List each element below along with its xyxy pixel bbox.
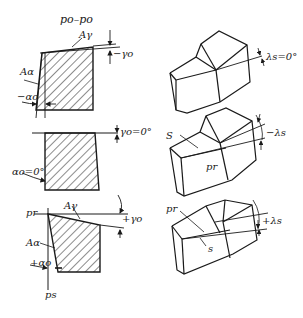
clearance-angle-label: αo=0° <box>12 167 45 177</box>
hatched-tool-section <box>45 133 99 190</box>
hatched-tool-section <box>48 214 100 272</box>
clearance-angle-label: −αo <box>17 92 38 102</box>
rake-angle-label: +γo <box>122 214 142 224</box>
tool-3d-lambda-positive <box>172 200 268 274</box>
inclination-label: λs=0° <box>266 52 297 62</box>
edge-label: s <box>208 244 213 254</box>
flank-face-label: Aα <box>20 67 34 77</box>
inclination-label: +λs <box>262 216 282 226</box>
rake-face-label: Aγ <box>79 30 92 40</box>
rake-angle-label: −γo <box>113 49 133 59</box>
diagram-svg <box>0 0 303 318</box>
section-negative-rake <box>22 30 120 118</box>
flank-face-label: Aα <box>26 238 40 248</box>
edge-label: S <box>166 131 173 141</box>
section-title: po–po <box>60 14 93 25</box>
tool-3d-lambda-zero <box>170 31 264 113</box>
pr-label: pr <box>206 162 217 172</box>
clearance-angle-label: +αo <box>30 258 51 268</box>
tool-3d-lambda-negative <box>170 108 265 196</box>
rake-face-label: Aγ <box>64 201 77 211</box>
ps-label: ps <box>45 290 57 300</box>
tool-angle-diagram: po–po Aγ −γo Aα −αo γo=0° αo=0° pr Aγ +γ… <box>0 0 303 318</box>
inclination-label: −λs <box>266 128 286 138</box>
rake-angle-label: γo=0° <box>120 127 152 137</box>
pr-label: pr <box>26 208 37 218</box>
section-zero-rake <box>22 125 118 190</box>
section-positive-rake <box>30 195 128 290</box>
pr-label: pr <box>166 204 177 214</box>
